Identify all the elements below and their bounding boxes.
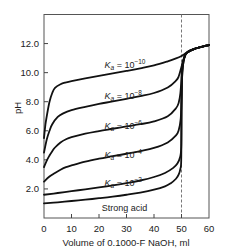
y-axis-title: pH [12,102,23,114]
x-tick-label: 60 [204,223,215,234]
curve-label: Strong acid [102,203,148,213]
curve-label: Ka = 10−8 [105,89,143,102]
y-tick-label: 4.0 [26,154,39,165]
x-tick-label: 50 [176,223,187,234]
curve-label: Ka = 10−10 [105,58,146,71]
x-axis-ticks: 0102030405060 [41,214,214,234]
y-tick-label: 2.0 [26,183,39,194]
curve-labels: Ka = 10−10Ka = 10−8Ka = 10−6Ka = 10−4Ka … [102,58,148,213]
y-tick-label: 10.0 [21,67,40,78]
y-tick-label: 6.0 [26,125,39,136]
curve-label: Ka = 10−2 [105,176,143,189]
y-tick-label: 12.0 [21,38,40,49]
y-tick-label: 8.0 [26,96,39,107]
x-axis-title: Volume of 0.1000-F NaOH, ml [62,237,189,248]
x-tick-label: 10 [66,223,77,234]
titration-chart: 0102030405060 2.04.06.08.010.012.0 Ka = … [0,0,226,252]
x-tick-label: 30 [121,223,132,234]
x-tick-label: 20 [94,223,105,234]
curve-label: Ka = 10−6 [105,119,143,132]
x-tick-label: 0 [41,223,46,234]
curve-label: Ka = 10−4 [105,148,143,161]
x-tick-label: 40 [149,223,160,234]
